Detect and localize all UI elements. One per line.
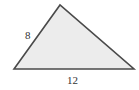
left-side-length-label: 8 <box>25 29 31 41</box>
base-length-label: 12 <box>67 74 78 86</box>
triangle <box>14 5 134 69</box>
triangle-diagram: 8 12 <box>0 0 139 90</box>
